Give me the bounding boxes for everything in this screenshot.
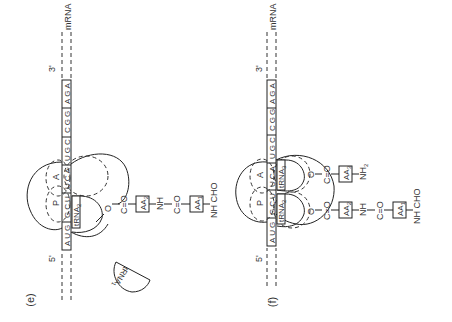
- chain-p-nh-cho: NH CHO: [412, 189, 422, 225]
- trna-2-stem: [96, 214, 104, 222]
- codon-3: UCA: [268, 164, 277, 187]
- five-prime-label: 5': [254, 255, 264, 262]
- chain-o: O: [103, 205, 113, 212]
- three-prime-label: 3': [47, 65, 57, 72]
- panel-e-label: (e): [24, 293, 36, 306]
- codon-4: UGC: [63, 137, 72, 161]
- chain-p-nh: NH: [358, 203, 368, 216]
- mrna-label: mRNA: [63, 4, 73, 31]
- chain-a-c-o: C=O: [322, 165, 332, 184]
- panel-f-label: (f): [266, 297, 278, 307]
- mrna-label: mRNA: [268, 4, 278, 31]
- codon-5: CGG: [63, 109, 72, 133]
- three-prime-label: 3': [254, 65, 264, 72]
- five-prime-label: 5': [47, 255, 57, 262]
- chain-p-o: O: [306, 208, 316, 215]
- chain-nh-cho: NH CHO: [209, 183, 219, 219]
- codon-6: AGA: [268, 81, 277, 104]
- panel-f: (f) 5' 3' mRNA AUG GCU UCA UGC CGG AGA P…: [236, 4, 422, 308]
- a-site-label: A: [51, 174, 61, 180]
- p-site-label: P: [51, 200, 61, 206]
- chain-c-o-1: C=O: [119, 195, 129, 214]
- chain-p-c-o-2: C=O: [375, 201, 385, 220]
- codon-4: UGC: [268, 135, 277, 159]
- chain-a-o: O: [306, 171, 316, 178]
- chain-p-c-o-1: C=O: [322, 201, 332, 220]
- chain-c-o-2: C=O: [172, 195, 182, 214]
- chain-nh-1: NH: [155, 197, 165, 210]
- codon-6: AGA: [63, 81, 72, 104]
- chain-a-nh2: NH2: [358, 163, 369, 180]
- translation-diagram: (e) 5' 3' mRNA AUG GCU UCA UGC CGG AGA: [0, 0, 452, 322]
- panel-e: (e) 5' 3' mRNA AUG GCU UCA UGC CGG AGA: [24, 4, 219, 307]
- codon-1: AUG: [63, 223, 72, 246]
- codon-1: AUG: [268, 220, 277, 243]
- codon-5: CGG: [268, 107, 277, 131]
- a-site-label: A: [255, 172, 265, 178]
- p-site-label: P: [255, 200, 265, 206]
